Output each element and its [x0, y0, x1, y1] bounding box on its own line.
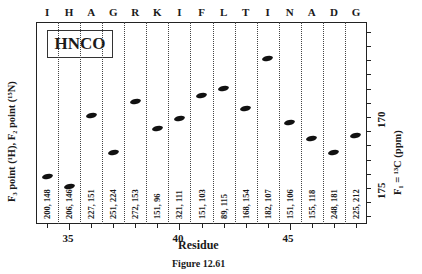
residue-letter: D	[323, 6, 345, 18]
y-tick-label-170: 170	[375, 112, 387, 129]
residue-letter: R	[124, 6, 146, 18]
strip-peak-label: 225, 212	[351, 189, 361, 219]
y-tick-label-175: 175	[375, 183, 387, 200]
strip-divider	[279, 22, 280, 224]
y-tick	[367, 103, 371, 104]
strip-peak-label: 151, 103	[197, 189, 207, 219]
strip-divider	[213, 22, 214, 224]
strip-peak-label: 200, 148	[42, 189, 52, 219]
x-tick	[246, 224, 247, 228]
x-tick	[290, 224, 291, 230]
x-tick	[179, 224, 180, 230]
residue-letter: F	[191, 6, 213, 18]
x-tick	[157, 224, 158, 228]
strip-divider	[146, 22, 147, 224]
strip-peak-label: 321, 111	[174, 190, 184, 219]
strip-divider	[168, 22, 169, 224]
y-axis-label-right: F₁ = ¹³C (ppm)	[392, 130, 403, 195]
strip-divider	[345, 22, 346, 224]
x-tick	[113, 224, 114, 228]
strip-peak-label: 206, 146	[64, 189, 74, 219]
residue-letter: N	[279, 6, 301, 18]
residue-letter: G	[345, 6, 367, 18]
strip-divider	[124, 22, 125, 224]
strip-peak-label: 248, 181	[329, 189, 339, 219]
y-tick	[367, 174, 371, 175]
y-axis-label-left: F₃ point (¹H), F₂ point (¹⁵N)	[6, 81, 17, 202]
x-tick	[224, 224, 225, 228]
residue-letter: I	[257, 6, 279, 18]
strip-peak-label: 251, 224	[108, 189, 118, 219]
x-tick	[312, 224, 313, 228]
strip-divider	[102, 22, 103, 224]
y-tick	[367, 160, 371, 161]
x-tick	[47, 224, 48, 228]
residue-letter: T	[235, 6, 257, 18]
x-tick-label-45: 45	[276, 232, 300, 244]
residue-letter: A	[301, 6, 323, 18]
strip-divider	[58, 22, 59, 224]
strip-peak-label: 168, 154	[241, 189, 251, 219]
strip-divider	[190, 22, 191, 224]
strip-peak-label: 272, 153	[130, 189, 140, 219]
x-tick	[91, 224, 92, 228]
x-tick	[268, 224, 269, 228]
strip-peak-label: 151, 106	[285, 189, 295, 219]
y-tick	[367, 145, 371, 146]
residue-letter: A	[80, 6, 102, 18]
y-tick	[367, 60, 371, 61]
y-tick	[367, 216, 371, 217]
residue-letter: K	[146, 6, 168, 18]
y-tick	[367, 117, 371, 118]
y-tick	[367, 46, 371, 47]
strip-divider	[301, 22, 302, 224]
y-tick	[367, 32, 371, 33]
residue-letter: G	[102, 6, 124, 18]
residue-letter: I	[36, 6, 58, 18]
strip-peak-label: 151, 96	[152, 194, 162, 220]
strip-peak-label: 89, 115	[219, 194, 229, 219]
x-tick	[135, 224, 136, 228]
x-axis-label: Residue	[178, 238, 219, 253]
strip-peak-label: 182, 107	[263, 189, 273, 219]
y-tick	[367, 89, 371, 90]
y-tick	[367, 188, 371, 189]
y-tick	[367, 131, 371, 132]
residue-letter: H	[58, 6, 80, 18]
strip-peak-label: 155, 118	[307, 190, 317, 219]
figure-caption: Figure 12.61	[172, 258, 225, 269]
x-tick-label-35: 35	[56, 232, 80, 244]
strip-divider	[235, 22, 236, 224]
residue-letter: I	[168, 6, 190, 18]
x-tick	[356, 224, 357, 228]
strip-divider	[80, 22, 81, 224]
strip-peak-label: 227, 151	[86, 189, 96, 219]
x-tick	[69, 224, 70, 230]
strip-divider	[257, 22, 258, 224]
residue-letter: L	[213, 6, 235, 18]
y-tick	[367, 202, 371, 203]
x-tick	[334, 224, 335, 228]
strip-divider	[323, 22, 324, 224]
y-tick	[367, 74, 371, 75]
x-tick	[202, 224, 203, 228]
